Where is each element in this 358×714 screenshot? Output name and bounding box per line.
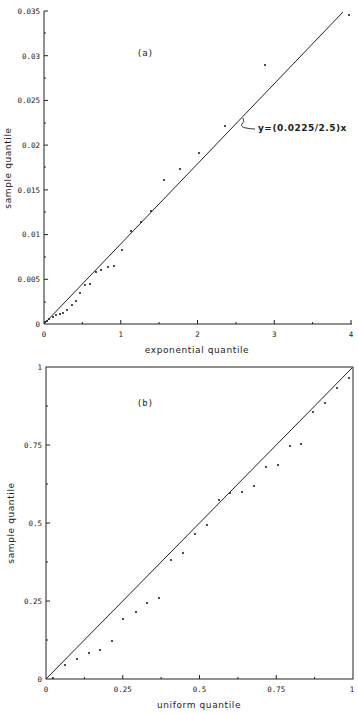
y-tick-label: 1	[37, 363, 42, 372]
panel-b-reference-line	[46, 368, 352, 679]
x-tick-label: 0	[44, 685, 49, 694]
panel-b: 1 0.75 0.5 0.25 0 0 0.25 0.5 0.75 1 unif…	[6, 363, 354, 710]
panel-b-x-tick-labels: 0 0.25 0.5 0.75 1	[44, 685, 355, 694]
panel-a-x-tick-labels: 0 1 2 3 4	[42, 330, 354, 339]
panel-a: 0.035 0.03 0.025 0.02 0.015 0.01 0.005 0…	[3, 7, 354, 355]
panel-a-label: (a)	[137, 48, 153, 58]
panel-a-annotation: y=(0.0225/2.5)x	[258, 123, 347, 133]
panel-b-points	[52, 377, 350, 679]
panel-a-y-ticks	[44, 11, 48, 302]
x-tick-label: 0.5	[193, 685, 207, 694]
y-tick-label: 0.025	[17, 96, 40, 105]
x-tick-label: 2	[195, 330, 200, 339]
y-tick-label: 0.02	[22, 141, 40, 150]
y-tick-label: 0.015	[17, 186, 40, 195]
y-tick-label: 0	[37, 675, 42, 684]
x-tick-label: 1	[118, 330, 123, 339]
panel-a-y-axis-title: sample quantile	[3, 127, 13, 208]
panel-a-x-axis-title: exponential quantile	[145, 345, 249, 355]
panel-b-x-ticks	[84, 675, 314, 679]
y-tick-label: 0.25	[24, 597, 42, 606]
panel-b-y-tick-labels: 1 0.75 0.5 0.25 0	[24, 363, 43, 684]
x-tick-label: 3	[272, 330, 277, 339]
x-tick-label: 0.75	[267, 685, 285, 694]
panel-b-y-ticks	[46, 406, 50, 640]
panel-b-x-axis-title: uniform quantile	[157, 700, 241, 710]
panel-a-reference-line	[44, 12, 343, 324]
x-tick-label: 4	[349, 330, 354, 339]
x-tick-label: 0	[42, 330, 47, 339]
panel-b-y-axis-title: sample quantile	[6, 482, 16, 563]
y-tick-label: 0.005	[17, 275, 40, 284]
qq-plots-figure: 0.035 0.03 0.025 0.02 0.015 0.01 0.005 0…	[0, 0, 358, 714]
panel-b-label: (b)	[137, 398, 153, 408]
y-tick-label: 0.01	[22, 230, 40, 239]
x-tick-label: 0.25	[114, 685, 132, 694]
panel-a-y-tick-labels: 0.035 0.03 0.025 0.02 0.015 0.01 0.005 0	[17, 7, 40, 329]
panel-a-annotation-leader	[242, 118, 256, 129]
y-tick-label: 0.75	[24, 441, 42, 450]
y-tick-label: 0.03	[22, 52, 40, 61]
y-tick-label: 0	[35, 320, 40, 329]
x-tick-label: 1	[350, 685, 355, 694]
y-tick-label: 0.5	[28, 519, 42, 528]
y-tick-label: 0.035	[17, 7, 40, 16]
panel-a-x-ticks	[82, 320, 351, 324]
